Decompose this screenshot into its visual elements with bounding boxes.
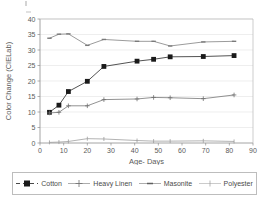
y-tick-label: 30 xyxy=(28,47,36,54)
data-point xyxy=(168,95,173,100)
series-line xyxy=(49,139,234,143)
y-tick-label: 15 xyxy=(28,93,36,100)
data-point xyxy=(232,53,237,58)
chart-legend: Cotton Heavy Linen Masonite Polyester xyxy=(12,172,257,195)
data-point xyxy=(135,59,140,64)
data-point xyxy=(85,104,90,109)
line-chart: 05101520253035400102030405060708090Age- … xyxy=(0,0,268,165)
plot-area: 05101520253035400102030405060708090Age- … xyxy=(0,0,268,165)
x-tick-label: 90 xyxy=(249,147,257,154)
x-tick-label: 10 xyxy=(60,147,68,154)
data-point xyxy=(102,64,107,69)
x-tick-label: 30 xyxy=(107,147,115,154)
legend-item-polyester[interactable]: Polyester xyxy=(195,179,256,188)
series-line xyxy=(49,56,234,113)
data-point xyxy=(151,57,156,62)
data-point xyxy=(168,54,173,59)
legend-label-masonite: Masonite xyxy=(164,180,192,187)
legend-swatch-cotton xyxy=(16,179,38,188)
legend-item-heavy-linen[interactable]: Heavy Linen xyxy=(65,179,135,188)
data-point xyxy=(135,97,140,102)
data-point xyxy=(57,103,62,108)
x-tick-label: 50 xyxy=(154,147,162,154)
y-tick-label: 40 xyxy=(28,16,36,23)
data-point xyxy=(85,79,90,84)
y-tick-label: 25 xyxy=(28,62,36,69)
legend-item-masonite[interactable]: Masonite xyxy=(135,179,195,188)
data-point xyxy=(201,54,206,59)
y-tick-label: 5 xyxy=(32,124,36,131)
y-tick-label: 35 xyxy=(28,31,36,38)
y-axis-title: Color Change (CIELab) xyxy=(4,41,13,120)
y-tick-label: 10 xyxy=(28,109,36,116)
data-point xyxy=(102,97,107,102)
x-tick-label: 40 xyxy=(131,147,139,154)
legend-swatch-heavy-linen xyxy=(68,179,90,188)
series-masonite xyxy=(47,34,236,46)
x-tick-label: 80 xyxy=(225,147,233,154)
x-tick-label: 70 xyxy=(202,147,210,154)
data-point xyxy=(57,110,62,115)
legend-swatch-polyester xyxy=(199,179,221,188)
legend-label-cotton: Cotton xyxy=(41,180,62,187)
y-tick-label: 20 xyxy=(28,78,36,85)
data-point xyxy=(66,104,71,109)
y-tick-label: 0 xyxy=(32,140,36,147)
series-line xyxy=(49,95,234,113)
x-tick-label: 60 xyxy=(178,147,186,154)
legend-label-heavy-linen: Heavy Linen xyxy=(93,180,132,187)
x-tick-label: 0 xyxy=(38,147,42,154)
data-point xyxy=(66,89,71,94)
legend-swatch-masonite xyxy=(139,179,161,188)
x-tick-label: 20 xyxy=(83,147,91,154)
legend-label-polyester: Polyester xyxy=(224,180,253,187)
chart-figure: 05101520253035400102030405060708090Age- … xyxy=(0,0,268,203)
data-point xyxy=(201,96,206,101)
data-point xyxy=(151,95,156,100)
x-axis-title: Age- Days xyxy=(129,157,164,165)
series-line xyxy=(49,34,234,46)
legend-item-cotton[interactable]: Cotton xyxy=(13,179,65,188)
